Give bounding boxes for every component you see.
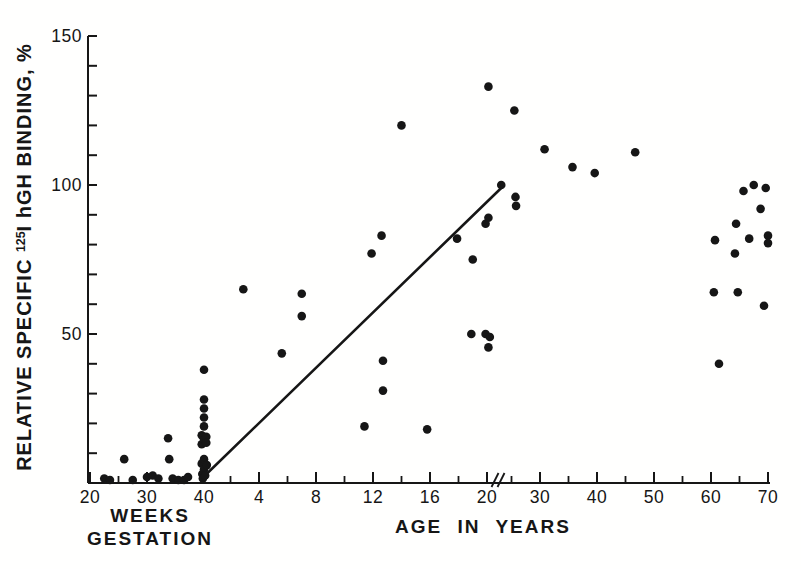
regression-line — [203, 188, 501, 477]
data-point — [764, 231, 773, 240]
y-axis-title-prefix: RELATIVE SPECIFIC — [13, 252, 35, 471]
data-point — [732, 219, 741, 228]
y-axis-title: RELATIVE SPECIFIC 125I hGH BINDING, % — [13, 27, 43, 487]
x-axis-title-gestation-line2: GESTATION — [70, 527, 230, 550]
data-point — [484, 343, 493, 352]
data-point — [423, 425, 432, 434]
plot-area: 50100150203040481216203040506070 — [0, 0, 801, 569]
y-axis-title-suffix: I hGH BINDING, % — [13, 43, 35, 231]
data-point — [540, 145, 549, 154]
data-point — [761, 184, 770, 193]
x-axis-title-gestation: WEEKS GESTATION — [70, 504, 230, 550]
y-tick-label: 150 — [51, 26, 82, 46]
data-point — [200, 413, 209, 422]
data-point — [715, 360, 724, 369]
data-point — [486, 333, 495, 342]
data-point — [710, 288, 719, 297]
data-point — [239, 285, 248, 294]
axis-break-slash — [498, 473, 505, 487]
data-point — [733, 288, 742, 297]
x-tick-label-years: 20 — [477, 487, 497, 507]
data-point — [467, 330, 476, 339]
x-tick-label-years: 50 — [644, 487, 664, 507]
y-tick-label: 100 — [51, 175, 82, 195]
x-axis-title-gestation-line1: WEEKS — [70, 504, 230, 527]
data-point — [590, 169, 599, 178]
data-point — [484, 213, 493, 222]
data-point — [203, 461, 212, 470]
data-point — [453, 234, 462, 243]
data-point — [739, 187, 748, 196]
x-tick-label-years: 12 — [363, 487, 383, 507]
x-tick-label-years: 70 — [758, 487, 778, 507]
x-tick-label-years: 30 — [530, 487, 550, 507]
x-tick-label-years: 8 — [311, 487, 321, 507]
hgh-binding-scatter-chart: 50100150203040481216203040506070 RELATIV… — [0, 0, 801, 569]
data-point — [745, 234, 754, 243]
x-tick-label-years: 60 — [701, 487, 721, 507]
data-point — [154, 474, 163, 483]
data-point — [297, 289, 306, 298]
x-tick-label-years: 16 — [420, 487, 440, 507]
data-point — [297, 312, 306, 321]
data-point — [510, 106, 519, 115]
data-point — [397, 121, 406, 130]
data-point — [731, 249, 740, 258]
data-point — [484, 82, 493, 91]
x-axis-title-years: AGE IN YEARS — [333, 516, 633, 538]
x-tick-label-years: 40 — [587, 487, 607, 507]
data-point — [200, 365, 209, 374]
isotope-superscript: 125 — [14, 231, 28, 252]
data-point — [568, 163, 577, 172]
data-point — [360, 422, 369, 431]
data-point — [497, 181, 506, 190]
axis-break-slash — [492, 473, 499, 487]
x-tick-label-years: 4 — [254, 487, 264, 507]
data-point — [512, 202, 521, 211]
data-point — [106, 476, 115, 485]
data-point — [379, 357, 388, 366]
data-point — [200, 404, 209, 413]
data-point — [511, 193, 520, 202]
data-point — [367, 249, 376, 258]
data-point — [468, 255, 477, 264]
data-point — [128, 476, 137, 485]
data-point — [278, 349, 287, 358]
data-point — [184, 473, 193, 482]
data-point — [201, 471, 210, 480]
data-point — [764, 239, 773, 248]
data-point — [120, 455, 129, 464]
data-point — [165, 455, 174, 464]
data-point — [711, 236, 720, 245]
data-point — [631, 148, 640, 157]
data-point — [377, 231, 386, 240]
data-point — [200, 422, 209, 431]
data-point — [164, 434, 173, 443]
data-point — [756, 205, 765, 214]
y-tick-label: 50 — [62, 324, 82, 344]
data-point — [202, 438, 211, 447]
data-point — [760, 301, 769, 310]
data-point — [200, 395, 209, 404]
data-point — [379, 386, 388, 395]
data-point — [749, 181, 758, 190]
